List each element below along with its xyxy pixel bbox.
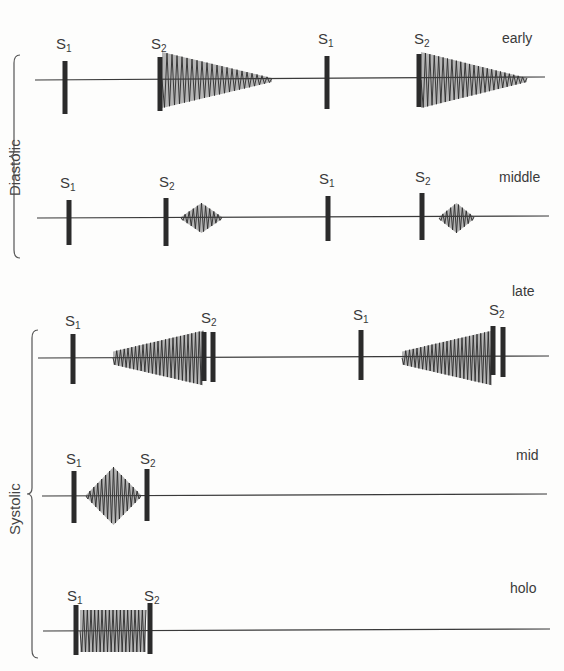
heart-sound-label: S2 (489, 302, 505, 320)
row-label-late: late (512, 283, 535, 299)
heart-sound-label: S1 (67, 588, 83, 606)
heart-sound-label: S1 (319, 171, 335, 189)
heart-sound-marker (417, 54, 422, 107)
heart-sound-marker (164, 198, 169, 246)
heart-sound-marker (491, 326, 496, 375)
heart-murmur-diagram: DiastolicSystolicS1S2S1S2earlyS1S2S1S2mi… (0, 0, 564, 671)
heart-sound-label: S2 (151, 36, 167, 54)
row-holo (43, 603, 550, 655)
heart-sound-label: S2 (140, 451, 156, 469)
heart-sound-marker (67, 200, 72, 245)
row-mid (42, 467, 547, 525)
heart-sound-label: S1 (60, 175, 76, 193)
heart-sound-label: S2 (414, 31, 430, 49)
heart-sound-marker (158, 57, 163, 111)
row-early (35, 52, 545, 114)
row-late (38, 326, 549, 385)
heart-sound-marker (501, 327, 506, 377)
diagram-canvas (0, 0, 564, 671)
row-label-holo: holo (510, 580, 536, 596)
heart-sound-marker (63, 61, 68, 114)
row-middle (37, 193, 549, 246)
heart-sound-marker (325, 56, 330, 109)
heart-sound-marker (74, 605, 79, 655)
heart-sound-marker (326, 196, 331, 241)
heart-sound-marker (145, 469, 150, 521)
systolic-group-label: Systolic (6, 483, 23, 535)
heart-sound-marker (72, 471, 77, 523)
systolic-brace (27, 330, 38, 658)
heart-sound-label: S2 (201, 310, 217, 328)
heart-sound-label: S2 (144, 588, 160, 606)
heart-sound-marker (202, 332, 207, 381)
heart-sound-label: S2 (159, 174, 175, 192)
diastolic-group-label: Diastolic (6, 139, 23, 196)
heart-sound-marker (71, 334, 76, 384)
row-label-mid: mid (516, 447, 539, 463)
heart-sound-label: S2 (415, 169, 431, 187)
heart-sound-marker (148, 603, 153, 654)
heart-sound-marker (211, 332, 216, 382)
heart-sound-label: S1 (56, 36, 72, 54)
heart-sound-marker (359, 330, 364, 380)
heart-sound-marker (420, 193, 425, 240)
heart-sound-label: S1 (353, 307, 369, 325)
heart-sound-label: S1 (318, 31, 334, 49)
heart-sound-label: S1 (66, 451, 82, 469)
row-label-early: early (502, 30, 532, 46)
heart-sound-label: S1 (65, 313, 81, 331)
row-label-middle: middle (499, 169, 540, 185)
